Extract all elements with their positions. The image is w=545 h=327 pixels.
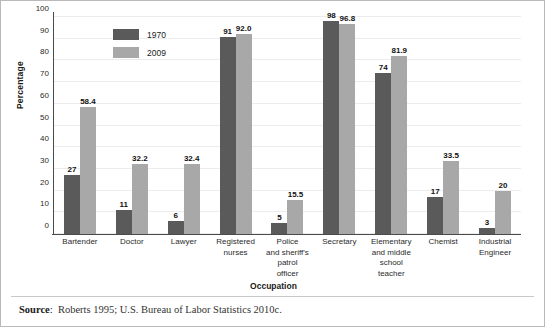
- bar-group: 320: [469, 17, 521, 234]
- source-separator: :: [50, 304, 53, 315]
- bar[interactable]: 15.5: [287, 200, 303, 234]
- bar-wrapper: 58.4: [80, 17, 96, 234]
- x-axis-tick-label: Doctor: [106, 237, 158, 248]
- bar-value-label: 15.5: [288, 190, 304, 199]
- bar-value-label: 81.9: [391, 46, 407, 55]
- bar-value-label: 74: [379, 63, 388, 72]
- y-axis-tick-label: 40: [40, 134, 49, 143]
- bar-value-label: 32.4: [184, 154, 200, 163]
- bar[interactable]: 27: [64, 175, 80, 234]
- bar[interactable]: 6: [168, 221, 184, 234]
- bar-wrapper: 92.0: [236, 17, 252, 234]
- bar-value-label: 3: [485, 218, 489, 227]
- source-text: Roberts 1995; U.S. Bureau of Labor Stati…: [58, 304, 282, 315]
- chart-legend: 1970 2009: [113, 29, 166, 58]
- x-axis-tick-label-line: Chemist: [417, 237, 469, 248]
- x-axis-tick-label-line: Police: [262, 237, 314, 248]
- bar-group: 1733.5: [417, 17, 469, 234]
- bar-value-label: 91: [223, 27, 232, 36]
- bar-value-label: 11: [120, 200, 128, 209]
- legend-swatch-2009: [113, 47, 139, 58]
- x-axis-tick-label: Elementaryand middleschoolteacher: [365, 237, 417, 279]
- legend-swatch-1970: [113, 29, 139, 40]
- bar-group: 7481.9: [365, 17, 417, 234]
- x-axis-tick-label-line: Bartender: [54, 237, 106, 248]
- legend-item-2009: 2009: [113, 47, 166, 58]
- x-axis-tick-label-line: Registered: [210, 237, 262, 248]
- y-axis-tick-label: 60: [40, 90, 49, 99]
- bar-wrapper: 5: [271, 17, 287, 234]
- x-axis-tick-label-line: Lawyer: [158, 237, 210, 248]
- bar[interactable]: 98: [323, 21, 339, 234]
- x-axis-tick-label-line: Elementary: [365, 237, 417, 248]
- bar-wrapper: 91: [220, 17, 236, 234]
- bar[interactable]: 20: [495, 191, 511, 234]
- x-axis-tick-label-line: teacher: [365, 269, 417, 280]
- bar-value-label: 96.8: [340, 14, 356, 23]
- x-axis-tick-label: Chemist: [417, 237, 469, 248]
- y-axis-tick-label: 0: [45, 221, 49, 230]
- legend-label-1970: 1970: [147, 30, 166, 40]
- bar[interactable]: 17: [427, 197, 443, 234]
- bar-wrapper: 3: [479, 17, 495, 234]
- bar-wrapper: 6: [168, 17, 184, 234]
- bar-value-label: 98: [327, 11, 336, 20]
- bar-wrapper: 27: [64, 17, 80, 234]
- x-axis-tick-label-line: and middle: [365, 248, 417, 259]
- bar-wrapper: 15.5: [287, 17, 303, 234]
- bar[interactable]: 91: [220, 37, 236, 234]
- bar[interactable]: 81.9: [391, 56, 407, 234]
- bar-wrapper: 33.5: [443, 17, 459, 234]
- bar-value-label: 17: [431, 187, 440, 196]
- y-axis-tick-label: 100: [36, 4, 49, 13]
- bar[interactable]: 32.2: [132, 164, 148, 234]
- bar-value-label: 6: [173, 211, 177, 220]
- y-axis-tick-label: 70: [40, 69, 49, 78]
- x-axis-tick-label-line: school: [365, 258, 417, 269]
- x-axis-tick-label-line: and sheriff's: [262, 248, 314, 259]
- bar[interactable]: 92.0: [236, 34, 252, 234]
- bar-wrapper: 81.9: [391, 17, 407, 234]
- bar[interactable]: 5: [271, 223, 287, 234]
- bar-group: 9192.0: [210, 17, 262, 234]
- bar-wrapper: 98: [323, 17, 339, 234]
- bar-value-label: 33.5: [443, 151, 459, 160]
- bar-value-label: 5: [277, 213, 281, 222]
- legend-label-2009: 2009: [147, 48, 166, 58]
- bar[interactable]: 32.4: [184, 164, 200, 234]
- bar-value-label: 58.4: [80, 97, 96, 106]
- bar-group: 9896.8: [313, 17, 365, 234]
- y-axis-tick-label: 50: [40, 112, 49, 121]
- x-axis-tick-label: Policeand sheriff'spatrolofficer: [262, 237, 314, 279]
- y-axis-tick-label: 30: [40, 155, 49, 164]
- source-line: Source: Roberts 1995; U.S. Bureau of Lab…: [19, 304, 282, 315]
- bar[interactable]: 3: [479, 228, 495, 235]
- source-label: Source: [19, 304, 50, 315]
- x-axis-tick-label-line: Doctor: [106, 237, 158, 248]
- bar[interactable]: 11: [116, 210, 132, 234]
- bar[interactable]: 74: [375, 73, 391, 234]
- bar-wrapper: 20: [495, 17, 511, 234]
- x-axis-tick-label-line: Engineer: [469, 248, 521, 259]
- x-axis-tick-label: Registerednurses: [210, 237, 262, 258]
- bar-group: 515.5: [262, 17, 314, 234]
- y-axis-tick-label: 90: [40, 25, 49, 34]
- bar-wrapper: 74: [375, 17, 391, 234]
- bar[interactable]: 33.5: [443, 161, 459, 234]
- bar-value-label: 20: [499, 181, 508, 190]
- y-axis-title: Percentage: [15, 93, 25, 109]
- y-axis-tick-label: 10: [40, 199, 49, 208]
- bar-value-label: 32.2: [132, 154, 148, 163]
- bar[interactable]: 96.8: [339, 24, 355, 234]
- bar-wrapper: 32.4: [184, 17, 200, 234]
- y-axis-tick-label: 80: [40, 47, 49, 56]
- bar-wrapper: 17: [427, 17, 443, 234]
- bar[interactable]: 58.4: [80, 107, 96, 234]
- x-axis-tick-label-line: officer: [262, 269, 314, 280]
- x-axis-tick-label-line: Industrial: [469, 237, 521, 248]
- figure-container: Percentage 0102030405060708090100 2758.4…: [0, 0, 545, 327]
- source-divider: [11, 296, 534, 297]
- x-axis-tick-label-line: Secretary: [313, 237, 365, 248]
- x-axis-title: Occupation: [1, 281, 545, 291]
- chart-area: Percentage 0102030405060708090100 2758.4…: [1, 1, 545, 285]
